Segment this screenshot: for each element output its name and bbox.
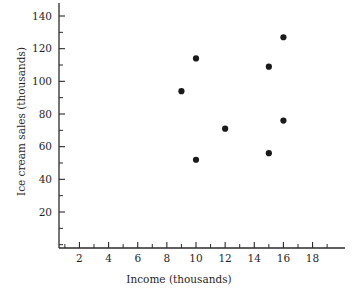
x-axis-title: Income (thousands) [126,273,231,285]
x-tick-label: 14 [248,252,262,264]
y-tick-label: 100 [32,75,52,87]
data-point [266,150,272,156]
x-tick-label: 6 [134,252,141,264]
data-point [280,34,286,40]
data-point-series [178,34,286,163]
x-axis-ticks: 24681012141618 [65,242,327,264]
y-axis-title: Ice cream sales (thousands) [15,47,27,196]
y-tick-label: 40 [39,173,52,185]
x-tick-label: 10 [189,252,202,264]
y-tick-label: 140 [32,10,52,22]
x-tick-label: 8 [164,252,171,264]
y-tick-label: 120 [32,42,52,54]
x-tick-label: 4 [105,252,112,264]
data-point [193,55,199,61]
data-point [222,126,228,132]
data-point [178,88,184,94]
data-point [280,117,286,123]
y-tick-label: 20 [39,206,52,218]
y-tick-label: 60 [39,140,52,152]
x-tick-label: 16 [277,252,291,264]
x-tick-label: 2 [76,252,83,264]
chart-axes [59,3,345,248]
chart-canvas: 2040608010012014024681012141618Income (t… [0,0,360,298]
x-tick-label: 18 [306,252,319,264]
scatter-chart: 2040608010012014024681012141618Income (t… [0,0,360,298]
x-tick-label: 12 [218,252,231,264]
y-axis-ticks: 20406080100120140 [32,10,65,245]
data-point [193,157,199,163]
y-tick-label: 80 [39,108,52,120]
data-point [266,64,272,70]
